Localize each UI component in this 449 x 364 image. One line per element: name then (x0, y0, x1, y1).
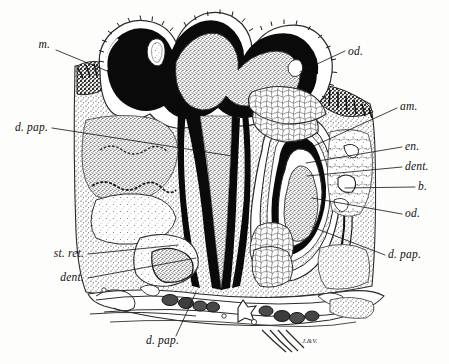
label-d-pap-left: d. pap. (15, 121, 48, 134)
label-dent-left: dent. (60, 271, 84, 283)
small-vessel-a (251, 319, 256, 324)
bone-region (328, 129, 373, 216)
label-d-pap-right: d. pap. (388, 248, 421, 261)
label-od-top: od. (348, 45, 363, 57)
right-cusp-enamel-pocket (288, 60, 303, 77)
artist-signature: J.&V. (302, 337, 318, 345)
small-vessel-b (222, 314, 226, 318)
left-dot-cell (102, 288, 106, 292)
tissue-block (74, 10, 375, 299)
right-granular-patch (330, 297, 374, 318)
label-am: am. (400, 100, 418, 112)
figure-root: m.od.am.d. pap.en.dent.b.od.d. pap.st. r… (0, 0, 449, 364)
label-en: en. (405, 140, 419, 152)
tooth-section-illustration: m.od.am.d. pap.en.dent.b.od.d. pap.st. r… (0, 0, 449, 364)
label-st-ret: st. ret. (54, 247, 84, 259)
label-d-pap-bot: d. pap. (146, 334, 179, 347)
label-dent-right: dent. (405, 160, 429, 172)
bone-lacuna-1 (338, 175, 356, 192)
left-cusp-pocket-core (151, 43, 162, 63)
germ-lower-follicle-net (252, 246, 293, 287)
label-od-right: od. (405, 207, 420, 219)
label-m: m. (38, 38, 50, 50)
label-b: b. (418, 180, 427, 192)
right-lower-tissue (318, 244, 370, 289)
